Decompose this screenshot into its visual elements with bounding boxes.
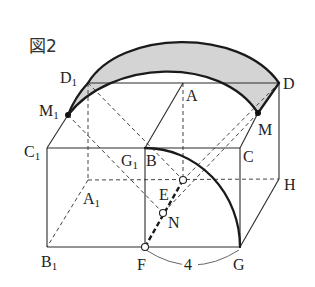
label-M: M [258,121,272,138]
label-A: A [186,87,198,104]
point-M1-dot [65,112,71,118]
figure-title: 図2 [29,36,57,56]
shaded-band [68,42,279,115]
edge-A1-B1 [47,180,88,247]
edge-C-M [240,113,258,148]
label-C1: C1 [24,143,40,162]
label-M1: M1 [39,102,59,121]
label-N: N [168,214,180,231]
label-D1: D1 [60,69,77,88]
point-F-circle [142,244,149,251]
label-F: F [137,256,146,273]
label-D: D [283,75,295,92]
point-N-circle [160,210,167,217]
edge-A-B [145,83,183,148]
label-B: B [146,152,157,169]
visible-edges [47,83,279,247]
dimension-label: 4 [184,256,192,273]
point-M-dot [255,110,261,116]
label-C: C [243,148,254,165]
geometry-figure: 図2 4 D1 A D [0,0,315,287]
label-A1: A1 [83,190,100,209]
label-G1: G1 [121,152,138,171]
label-E: E [159,186,169,203]
point-E-circle [180,177,187,184]
label-G: G [233,256,245,273]
label-H: H [284,176,296,193]
edge-H-G [240,179,279,247]
label-B1: B1 [41,253,57,272]
hidden-edges [47,83,279,247]
